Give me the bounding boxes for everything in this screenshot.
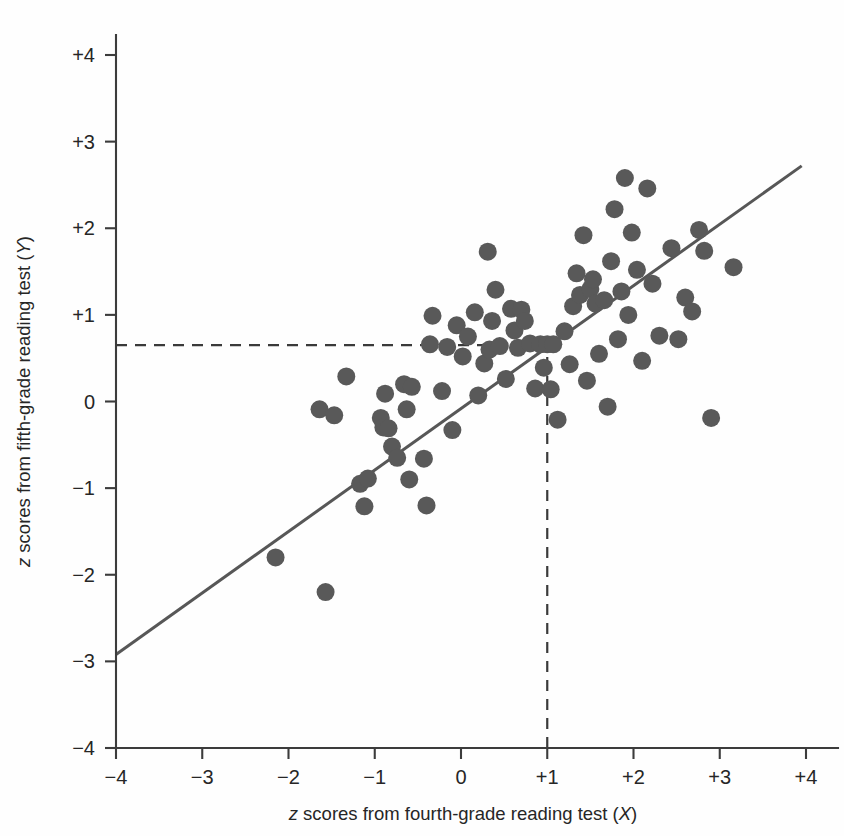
regression-line-layer [116,166,802,655]
data-point [479,243,497,261]
x-tick-label: −4 [105,766,128,788]
data-point [317,583,335,601]
data-point [376,385,394,403]
x-tick-label: +2 [622,766,645,788]
data-point [578,372,596,390]
data-point [612,282,630,300]
data-point [398,400,416,418]
data-point [561,355,579,373]
data-point [683,302,701,320]
y-tick-label: +2 [72,217,95,239]
regression-line [116,166,802,655]
data-point [669,330,687,348]
y-tick-label: −4 [72,737,95,759]
data-point [568,264,586,282]
data-point [535,359,553,377]
data-point [526,380,544,398]
data-point [606,200,624,218]
data-point [628,261,646,279]
scatter-plot-figure: −4−3−2−10+1+2+3+4−4−3−2−10+1+2+3+4 z sco… [0,0,844,836]
data-point [469,386,487,404]
data-point [702,409,720,427]
guide-lines-layer [116,345,547,748]
data-point [556,322,574,340]
y-tick-label: 0 [84,391,95,413]
data-point [584,270,602,288]
data-point [380,419,398,437]
data-point [337,367,355,385]
data-point [599,398,617,416]
data-point [695,242,713,260]
data-point [438,338,456,356]
data-point [325,406,343,424]
y-tick-label: +3 [72,131,95,153]
plot-canvas: −4−3−2−10+1+2+3+4−4−3−2−10+1+2+3+4 z sco… [0,0,844,836]
data-point [459,328,477,346]
x-tick-label: +4 [795,766,818,788]
data-point [643,275,661,293]
y-tick-label: −1 [72,477,95,499]
x-tick-label: +1 [536,766,559,788]
data-point [662,239,680,257]
data-point [421,335,439,353]
data-point [497,370,515,388]
data-point [623,224,641,242]
data-point [633,352,651,370]
x-tick-label: +3 [708,766,731,788]
x-tick-label: −1 [363,766,386,788]
data-point [388,449,406,467]
data-point [454,347,472,365]
data-point [542,380,560,398]
data-point [359,470,377,488]
data-point [483,312,501,330]
data-point [491,337,509,355]
data-point [433,382,451,400]
data-point [690,221,708,239]
y-tick-label: −3 [72,650,95,672]
data-point [616,169,634,187]
data-point [619,306,637,324]
data-point [267,548,285,566]
y-tick-label: +4 [72,44,95,66]
y-axis-title: z scores from fifth-grade reading test (… [13,236,34,568]
data-points-layer [267,169,743,601]
x-tick-label: −3 [191,766,214,788]
y-tick-label: +1 [72,304,95,326]
axis-titles-layer: z scores from fourth-grade reading test … [13,236,637,824]
data-point [574,226,592,244]
data-point [650,327,668,345]
y-tick-label: −2 [72,564,95,586]
data-point [725,258,743,276]
data-point [516,312,534,330]
data-point [418,496,436,514]
data-point [590,345,608,363]
data-point [403,378,421,396]
data-point [424,307,442,325]
data-point [638,179,656,197]
data-point [415,450,433,468]
x-axis-title: z scores from fourth-grade reading test … [288,803,638,824]
data-point [549,411,567,429]
data-point [443,421,461,439]
data-point [602,252,620,270]
x-tick-label: −2 [277,766,300,788]
data-point [355,497,373,515]
data-point [595,291,613,309]
x-tick-label: 0 [455,766,466,788]
data-point [487,281,505,299]
data-point [609,330,627,348]
data-point [400,470,418,488]
data-point [466,303,484,321]
